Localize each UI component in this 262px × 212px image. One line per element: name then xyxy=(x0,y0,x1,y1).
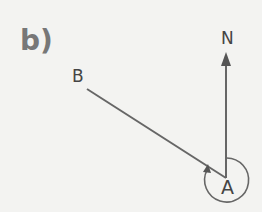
line-ab xyxy=(87,89,226,178)
bearing-diagram xyxy=(0,0,262,212)
north-arrowhead-icon xyxy=(221,52,231,66)
